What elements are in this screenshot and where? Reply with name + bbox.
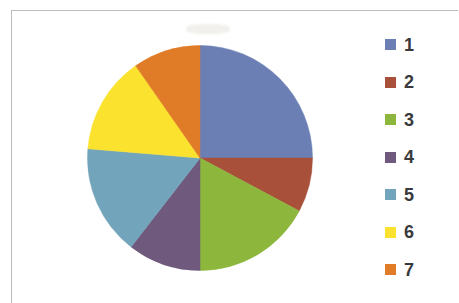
pie-slice-group <box>88 46 313 271</box>
legend-swatch-icon-7 <box>385 264 396 275</box>
chart-screenshot: 1 2 3 4 5 6 <box>0 0 459 303</box>
legend-swatch-icon-6 <box>385 227 396 238</box>
legend-item-6[interactable]: 6 <box>385 214 447 252</box>
pie-graphic <box>87 45 313 271</box>
legend-swatch-icon-2 <box>385 77 396 88</box>
legend-item-4[interactable]: 4 <box>385 139 447 177</box>
legend-swatch-icon-3 <box>385 114 396 125</box>
legend-label-3: 3 <box>404 111 414 129</box>
pie-svg <box>87 45 313 271</box>
legend-item-7[interactable]: 7 <box>385 251 447 289</box>
legend-label-1: 1 <box>404 36 414 54</box>
pie-slice-1[interactable] <box>200 46 313 159</box>
legend-swatch-icon-4 <box>385 152 396 163</box>
chart-legend: 1 2 3 4 5 6 <box>385 26 447 289</box>
legend-label-7: 7 <box>404 261 414 279</box>
legend-label-4: 4 <box>404 148 414 166</box>
legend-label-5: 5 <box>404 186 414 204</box>
legend-label-2: 2 <box>404 73 414 91</box>
legend-label-6: 6 <box>404 223 414 241</box>
legend-item-3[interactable]: 3 <box>385 101 447 139</box>
legend-swatch-icon-5 <box>385 189 396 200</box>
legend-item-1[interactable]: 1 <box>385 26 447 64</box>
legend-item-2[interactable]: 2 <box>385 64 447 102</box>
legend-swatch-icon-1 <box>385 39 396 50</box>
pie-chart-area: 1 2 3 4 5 6 <box>0 0 459 303</box>
legend-item-5[interactable]: 5 <box>385 176 447 214</box>
